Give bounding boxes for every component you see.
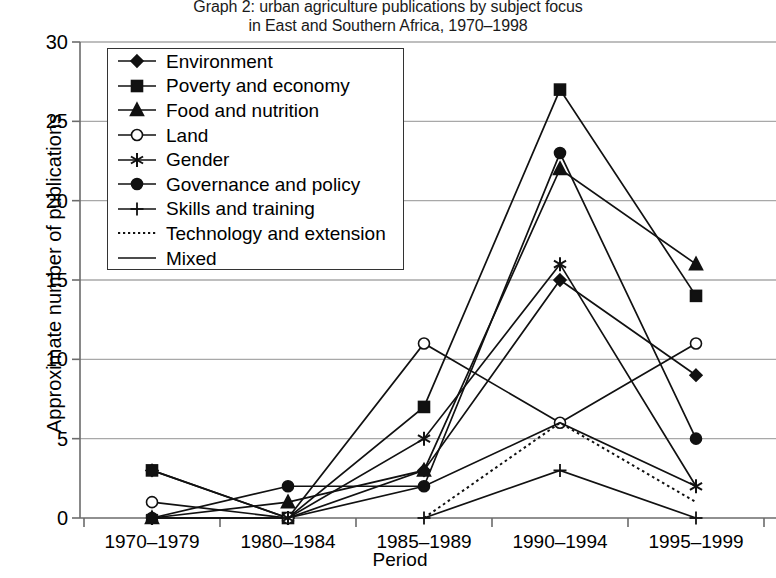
legend-swatch-plus-icon [116, 199, 158, 219]
y-tick-label-30: 30 [24, 32, 68, 52]
legend-swatch-none-icon [116, 248, 158, 268]
marker-poverty-and-economy-4 [691, 290, 702, 301]
legend-item-governance-and-policy[interactable]: Governance and policy [108, 172, 403, 197]
y-tick-label-20: 20 [24, 191, 68, 211]
x-tick-label-0: 1970–1979 [87, 532, 217, 551]
legend-item-gender[interactable]: Gender [108, 147, 403, 172]
chart-legend: EnvironmentPoverty and economyFood and n… [107, 48, 404, 270]
legend-label: Governance and policy [166, 175, 360, 194]
legend-label: Technology and extension [166, 224, 386, 243]
legend-item-skills-and-training[interactable]: Skills and training [108, 197, 403, 222]
marker-land-4 [691, 338, 702, 349]
legend-marker [131, 55, 143, 67]
marker-land-0 [147, 497, 158, 508]
chart-container: Graph 2: urban agriculture publications … [0, 0, 776, 578]
legend-label: Mixed [166, 249, 217, 268]
series-line-skills-and-training [424, 470, 696, 518]
legend-swatch-square-icon [116, 76, 158, 96]
legend-label: Poverty and economy [166, 76, 350, 95]
legend-label: Gender [166, 150, 229, 169]
y-tick-label-0: 0 [24, 508, 68, 528]
marker-poverty-and-economy-3 [555, 84, 566, 95]
x-tick-label-2: 1985–1989 [359, 532, 489, 551]
chart-title: Graph 2: urban agriculture publications … [0, 0, 776, 35]
legend-swatch-none-icon [116, 223, 158, 243]
legend-swatch-circle-icon [116, 174, 158, 194]
marker-governance-and-policy-1 [283, 481, 294, 492]
legend-marker [132, 179, 143, 190]
x-tick-label-1: 1980–1984 [223, 532, 353, 551]
legend-item-environment[interactable]: Environment [108, 49, 403, 74]
x-tick-label-3: 1990–1994 [495, 532, 625, 551]
legend-label: Food and nutrition [166, 101, 319, 120]
chart-title-line1: Graph 2: urban agriculture publications … [0, 0, 776, 16]
legend-item-poverty-and-economy[interactable]: Poverty and economy [108, 74, 403, 99]
marker-land-2 [419, 338, 430, 349]
legend-marker [132, 80, 143, 91]
marker-skills-and-training-4 [690, 512, 703, 525]
legend-label: Land [166, 126, 208, 145]
legend-item-land[interactable]: Land [108, 123, 403, 148]
y-tick-label-25: 25 [24, 111, 68, 131]
y-tick-label-15: 15 [24, 270, 68, 290]
legend-swatch-circle-open-icon [116, 125, 158, 145]
marker-environment-4 [690, 369, 702, 381]
legend-item-mixed[interactable]: Mixed [108, 246, 403, 271]
marker-environment-3 [554, 274, 566, 286]
x-tick-label-4: 1995–1999 [631, 532, 761, 551]
legend-swatch-triangle-icon [116, 100, 158, 120]
legend-label: Skills and training [166, 199, 315, 218]
marker-governance-and-policy-3 [555, 148, 566, 159]
marker-poverty-and-economy-0 [147, 465, 158, 476]
legend-marker [131, 202, 144, 215]
legend-marker [132, 130, 143, 141]
marker-food-and-nutrition-4 [690, 257, 703, 270]
marker-governance-and-policy-4 [691, 433, 702, 444]
marker-poverty-and-economy-2 [419, 401, 430, 412]
legend-label: Environment [166, 52, 273, 71]
legend-item-technology-and-extension[interactable]: Technology and extension [108, 221, 403, 246]
chart-title-line2: in East and Southern Africa, 1970–1998 [0, 16, 776, 35]
y-tick-label-5: 5 [24, 429, 68, 449]
marker-skills-and-training-3 [554, 464, 567, 477]
legend-swatch-diamond-icon [116, 51, 158, 71]
y-tick-label-10: 10 [24, 349, 68, 369]
x-axis-label: Period [80, 549, 720, 571]
legend-swatch-asterisk-icon [116, 150, 158, 170]
legend-item-food-and-nutrition[interactable]: Food and nutrition [108, 98, 403, 123]
